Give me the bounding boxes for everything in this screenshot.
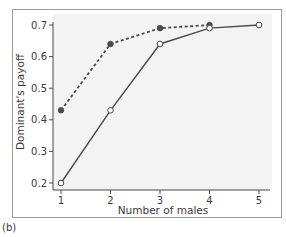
y-tick-label: 0.6	[31, 51, 47, 62]
filled-circle-marker	[157, 25, 163, 31]
y-tick-label: 0.2	[31, 178, 47, 189]
y-tick-label: 0.3	[31, 146, 47, 157]
line-chart: 0.20.30.40.50.60.712345Number of malesDo…	[0, 0, 286, 237]
y-tick-label: 0.5	[31, 83, 47, 94]
plot-area	[53, 14, 272, 190]
y-tick-label: 0.4	[31, 114, 47, 125]
filled-circle-marker	[58, 108, 64, 114]
open-circle-marker	[207, 25, 213, 31]
y-axis-label: Dominant's payoff	[14, 53, 26, 150]
filled-circle-marker	[108, 41, 114, 47]
x-tick-label: 5	[256, 195, 262, 206]
panel-label: (b)	[2, 222, 16, 233]
open-circle-marker	[58, 180, 64, 186]
x-tick-label: 1	[58, 195, 64, 206]
open-circle-marker	[157, 41, 163, 47]
y-tick-label: 0.7	[31, 20, 47, 31]
open-circle-marker	[256, 22, 262, 28]
x-axis-label: Number of males	[118, 204, 209, 216]
x-tick-label: 2	[107, 195, 113, 206]
open-circle-marker	[108, 108, 114, 114]
